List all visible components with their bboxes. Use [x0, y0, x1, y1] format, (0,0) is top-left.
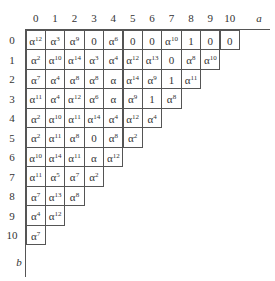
table-cell: α2: [26, 127, 46, 148]
table-cell: 1: [181, 30, 201, 51]
table-cell: α10: [200, 49, 220, 70]
row-label: 5: [2, 131, 22, 145]
row-label: 0: [2, 33, 22, 47]
table-cell: 0: [84, 127, 104, 148]
table-cell: α14: [45, 147, 65, 168]
row-label: 6: [2, 150, 22, 164]
table-cell: α10: [161, 30, 181, 51]
table-cell: α11: [45, 127, 65, 148]
table-cell: α10: [45, 108, 65, 129]
table-cell: α14: [123, 69, 143, 90]
table-cell: 0: [142, 30, 162, 51]
table-cell: α4: [26, 205, 46, 226]
row-label: 9: [2, 209, 22, 223]
table-cell: α13: [142, 49, 162, 70]
column-label: 4: [104, 11, 123, 25]
row-label: 3: [2, 92, 22, 106]
column-label: 2: [65, 11, 84, 25]
table-cell: α6: [84, 88, 104, 109]
row-label: 7: [2, 170, 22, 184]
table-cell: α4: [45, 88, 65, 109]
table-cell: 0: [200, 30, 220, 51]
table-cell: α11: [26, 88, 46, 109]
table-cell: α12: [123, 108, 143, 129]
table-cell: α9: [123, 88, 143, 109]
table-cell: α8: [64, 69, 84, 90]
table-cell: α: [103, 69, 123, 90]
column-label: 3: [84, 11, 103, 25]
column-label: 1: [45, 11, 64, 25]
table-cell: 0: [161, 49, 181, 70]
table-cell: α8: [181, 49, 201, 70]
table-cell: α8: [84, 69, 104, 90]
table-cell: α12: [123, 49, 143, 70]
table-cell: α7: [26, 69, 46, 90]
table-cell: α14: [84, 108, 104, 129]
row-label: 4: [2, 111, 22, 125]
table-cell: α7: [26, 225, 46, 246]
y-axis-label: b: [12, 255, 26, 269]
table-cell: α: [103, 88, 123, 109]
table-cell: α11: [64, 108, 84, 129]
table-cell: α11: [181, 69, 201, 90]
column-label: 8: [181, 11, 200, 25]
table-cell: α14: [64, 49, 84, 70]
row-label: 1: [2, 53, 22, 67]
table-cell: α9: [142, 69, 162, 90]
table-cell: α2: [84, 166, 104, 187]
column-label: 10: [220, 11, 239, 25]
table-cell: α4: [45, 69, 65, 90]
table-cell: 0: [220, 30, 240, 51]
table-cell: α2: [26, 49, 46, 70]
table-cell: α12: [45, 205, 65, 226]
table-cell: α4: [142, 108, 162, 129]
table-cell: α6: [103, 30, 123, 51]
table-cell: α4: [103, 49, 123, 70]
table-cell: α3: [45, 30, 65, 51]
table-cell: 0: [84, 30, 104, 51]
row-label: 2: [2, 72, 22, 86]
column-label: 7: [162, 11, 181, 25]
table-cell: 1: [161, 69, 181, 90]
table-cell: α11: [64, 147, 84, 168]
column-label: 5: [123, 11, 142, 25]
column-label: 0: [26, 11, 45, 25]
column-label: 9: [201, 11, 220, 25]
table-cell: α7: [26, 186, 46, 207]
table-cell: α3: [84, 49, 104, 70]
table-cell: α5: [45, 166, 65, 187]
table-cell: α7: [64, 166, 84, 187]
table-cell: α8: [161, 88, 181, 109]
table-cell: α2: [123, 127, 143, 148]
table-cell: α4: [103, 108, 123, 129]
table-cell: α11: [26, 166, 46, 187]
row-label: 8: [2, 189, 22, 203]
table-cell: α10: [45, 49, 65, 70]
table-cell: α10: [26, 147, 46, 168]
table-cell: α9: [64, 30, 84, 51]
column-label: 6: [142, 11, 161, 25]
table-cell: 1: [142, 88, 162, 109]
table-cell: α12: [64, 88, 84, 109]
table-cell: α: [84, 147, 104, 168]
table-cell: α8: [64, 127, 84, 148]
table-cell: α8: [103, 127, 123, 148]
row-label: 10: [2, 228, 22, 242]
table-cell: α8: [64, 186, 84, 207]
table-cell: α2: [26, 108, 46, 129]
table-cell: α12: [26, 30, 46, 51]
table-cell: α13: [45, 186, 65, 207]
table-cell: α12: [103, 147, 123, 168]
x-axis-label: a: [252, 11, 266, 25]
table-cell: 0: [123, 30, 143, 51]
